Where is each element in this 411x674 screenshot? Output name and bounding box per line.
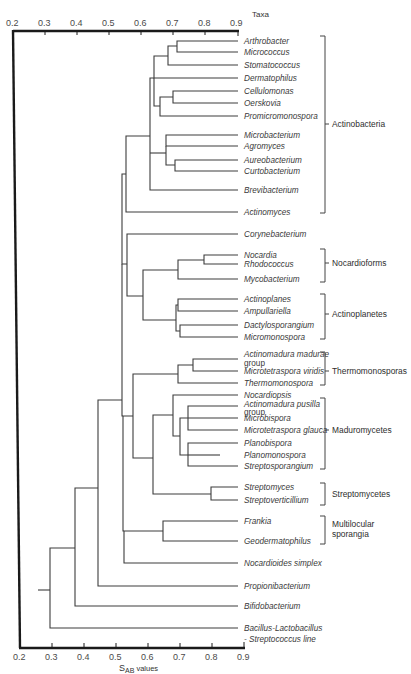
bracket-streptomycetes: Streptomycetes [320,483,390,505]
top-tick-label: 0.7 [166,18,179,28]
taxon-label: Rhodococcus [244,260,294,269]
bottom-tick-label: 0.5 [109,652,122,662]
top-tick-label: 0.8 [198,18,211,28]
taxon-label: Stomatococcus [244,61,300,70]
top-tick-label: 0.5 [102,18,115,28]
taxon-label: Streptomyces [244,483,294,492]
bracket-nocardioforms: Nocardioforms [320,249,386,282]
taxon-label: Agromyces [243,142,285,151]
taxon-label: Bacillus-Lactobacillus [244,624,322,633]
taxon-label: Microtetraspora viridis [244,367,324,376]
taxon-label: Streptoverticillium [244,496,309,505]
group-label: sporangia [332,529,369,539]
taxon-label: Microtetraspora glauca [244,426,328,435]
bracket-thermomonosporas: Thermomonosporas [320,352,407,385]
taxon-label: Promicromonospora [244,112,318,121]
taxon-label: Micromonospora [244,333,305,342]
dendrogram-branches [38,41,238,628]
taxon-label: Actinomyces [243,208,290,217]
taxon-label: Nocardia [244,251,277,260]
group-label: Nocardioforms [332,258,386,268]
top-tick-label: 0.9 [230,18,243,28]
taxon-label: - Streptococcus line [244,635,316,644]
taxon-label: Microbispora [244,414,291,423]
taxon-label: Dermatophilus [244,74,297,83]
bottom-axis-title: SAB values [119,663,158,674]
top-tick-label: 0.4 [70,18,83,28]
dendrogram-figure: Taxa 0.2 0.3 0.4 0.5 0.6 0.7 0.8 0.9 [0,0,411,674]
taxon-labels: Arthrobacter Micrococcus Stomatococcus D… [243,37,330,644]
taxon-label: Planobispora [244,439,292,448]
group-label: Maduromycetes [332,425,392,435]
top-tick-label: 0.6 [134,18,147,28]
group-label: Thermomonosporas [332,366,407,376]
taxon-label: Aureobacterium [243,156,302,165]
taxon-label: Actinoplanes [243,295,291,304]
group-label: Actinoplanetes [332,309,387,319]
taxon-label: Planomonospora [244,451,306,460]
group-label: Streptomycetes [332,489,390,499]
bracket-actinobacteria: Actinobacteria [320,36,385,213]
taxon-label: Micrococcus [244,48,290,57]
taxon-label: Nocardioides simplex [244,559,323,568]
taxon-label: Microbacterium [244,131,300,140]
taxon-label: Cellulomonas [244,87,294,96]
taxon-label: Streptosporangium [244,462,313,471]
taxon-label: Propionibacterium [244,582,310,591]
axis-title-rest: values [134,664,158,673]
top-axis-title: Taxa [252,10,269,19]
taxon-label: Frankia [244,517,272,526]
bottom-axis-ticks: 0.2 0.3 0.4 0.5 0.6 0.7 0.8 0.9 [13,652,250,662]
bottom-tick-label: 0.6 [141,652,154,662]
axis-frame [13,30,245,648]
taxon-label: Ampullariella [243,307,291,316]
bracket-multilocular-sporangia: Multilocular sporangia [320,516,375,544]
taxon-label: Thermomonospora [244,379,314,388]
bottom-tick-label: 0.4 [77,652,90,662]
top-tick-label: 0.2 [6,18,19,28]
taxon-label: Nocardiopsis [244,391,291,400]
bottom-tick-label: 0.3 [45,652,58,662]
group-label: Actinobacteria [332,119,385,129]
bottom-tick-label: 0.7 [173,652,186,662]
bracket-actinoplanetes: Actinoplanetes [320,294,387,339]
taxon-label: Corynebacterium [244,230,307,239]
taxon-label: Dactylosporangium [244,321,314,330]
taxon-label: Arthrobacter [243,37,289,46]
taxon-label: Mycobacterium [244,275,300,284]
taxon-label: Brevibacterium [244,186,299,195]
group-brackets: Actinobacteria Nocardioforms Actinoplane… [320,36,407,544]
taxon-label: Curtobacterium [244,167,300,176]
taxon-label: Oerskovia [244,99,281,108]
taxon-label: Actinomadura madurae [243,350,330,359]
group-label: Multilocular [332,519,375,529]
taxon-label: Geodermatophilus [244,537,311,546]
bottom-tick-label: 0.8 [205,652,218,662]
taxon-label: Bifidobacterium [244,602,301,611]
top-axis-ticks: 0.2 0.3 0.4 0.5 0.6 0.7 0.8 0.9 [6,18,243,28]
top-tick-label: 0.3 [38,18,51,28]
bracket-maduromycetes: Maduromycetes [320,398,392,469]
bottom-tick-label: 0.9 [237,652,250,662]
bottom-tick-label: 0.2 [13,652,26,662]
axis-title-subscript: AB [125,667,135,674]
